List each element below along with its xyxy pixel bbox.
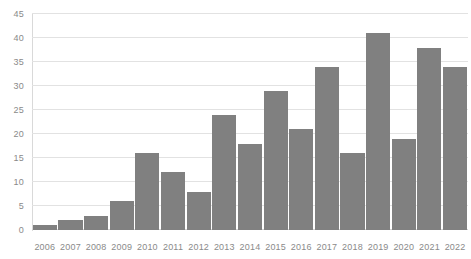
bar[interactable] [417,48,441,230]
bar-slot [83,14,109,230]
x-tick-slot: 2016 [288,236,314,254]
x-axis-tick-label: 2018 [342,242,363,252]
bar-chart: 051015202530354045 200620072008200920102… [0,0,471,259]
bar-slot [263,14,289,230]
x-axis-tick-label: 2013 [214,242,235,252]
bar[interactable] [161,172,185,230]
x-tick-slot: 2007 [58,236,84,254]
x-axis-tick-label: 2008 [86,242,107,252]
x-axis-tick-labels: 2006200720082009201020112012201320142015… [32,236,468,254]
y-axis-tick-label: 5 [19,201,24,211]
x-axis-tick-label: 2017 [316,242,337,252]
bar[interactable] [110,201,134,230]
y-axis-tick-label: 20 [14,129,24,139]
y-axis-tick-label: 35 [14,57,24,67]
bar-slot [109,14,135,230]
bar-slot [237,14,263,230]
y-axis-tick-labels: 051015202530354045 [0,0,30,259]
x-axis-tick-label: 2019 [368,242,389,252]
bar[interactable] [289,129,313,230]
y-axis-tick-label: 0 [19,225,24,235]
x-axis-tick-label: 2007 [60,242,81,252]
bar-slot [417,14,443,230]
x-tick-slot: 2017 [314,236,340,254]
plot-area [32,14,468,230]
x-tick-slot: 2014 [237,236,263,254]
bar[interactable] [264,91,288,230]
x-axis-tick-label: 2011 [163,242,183,252]
bar-slot [32,14,58,230]
x-tick-slot: 2018 [340,236,366,254]
x-tick-slot: 2009 [109,236,135,254]
y-axis-tick-label: 10 [14,177,24,187]
x-tick-slot: 2013 [211,236,237,254]
x-tick-slot: 2008 [83,236,109,254]
x-tick-slot: 2021 [417,236,443,254]
bar[interactable] [58,220,82,230]
x-axis-tick-label: 2016 [291,242,312,252]
bar[interactable] [238,144,262,230]
bar-slot [314,14,340,230]
bar[interactable] [212,115,236,230]
bar-slot [442,14,468,230]
bar[interactable] [187,192,211,230]
x-axis-tick-label: 2009 [111,242,132,252]
bar[interactable] [135,153,159,230]
x-axis-tick-label: 2020 [393,242,414,252]
x-tick-slot: 2015 [263,236,289,254]
x-tick-slot: 2012 [186,236,212,254]
bar-slot [365,14,391,230]
x-axis-tick-label: 2014 [240,242,261,252]
y-axis-tick-label: 45 [14,9,24,19]
x-tick-slot: 2022 [442,236,468,254]
bar[interactable] [366,33,390,230]
x-axis-tick-label: 2021 [419,242,440,252]
x-axis-tick-label: 2006 [34,242,55,252]
x-tick-slot: 2019 [365,236,391,254]
bars-layer [32,14,468,230]
bar-slot [135,14,161,230]
bar-slot [391,14,417,230]
y-axis-tick-label: 30 [14,81,24,91]
x-tick-slot: 2010 [135,236,161,254]
bar[interactable] [84,216,108,230]
x-axis-tick-label: 2010 [137,242,158,252]
bar-slot [340,14,366,230]
y-axis-tick-label: 15 [14,153,24,163]
y-axis-tick-label: 40 [14,33,24,43]
x-tick-slot: 2020 [391,236,417,254]
bar[interactable] [315,67,339,230]
x-tick-slot: 2011 [160,236,186,254]
y-axis-tick-label: 25 [14,105,24,115]
bar-slot [211,14,237,230]
bar[interactable] [33,225,57,230]
bar[interactable] [392,139,416,230]
bar[interactable] [443,67,467,230]
bar-slot [186,14,212,230]
bar[interactable] [340,153,364,230]
x-tick-slot: 2006 [32,236,58,254]
bar-slot [288,14,314,230]
x-axis-tick-label: 2015 [265,242,286,252]
x-axis-tick-label: 2012 [188,242,209,252]
x-axis-tick-label: 2022 [445,242,466,252]
bar-slot [58,14,84,230]
bar-slot [160,14,186,230]
